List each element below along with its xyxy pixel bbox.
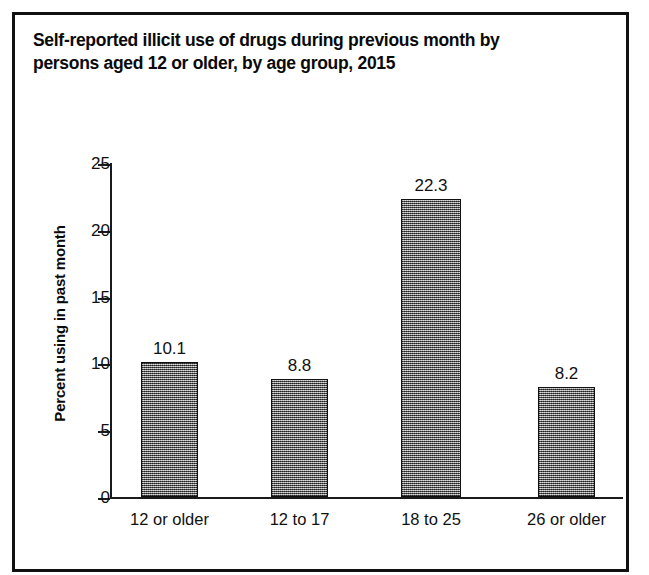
x-tick-label-2: 18 to 25 — [355, 511, 507, 528]
bar-group-3: 8.2 26 or older — [538, 15, 595, 575]
y-axis-title: Percent using in past month — [51, 224, 68, 424]
y-tick-label-25: 25 — [44, 155, 110, 172]
bar-value-1: 8.8 — [247, 357, 352, 374]
bar-value-3: 8.2 — [514, 365, 619, 382]
x-tick-label-1: 12 to 17 — [225, 511, 374, 528]
x-tick-label-3: 26 or older — [492, 511, 641, 528]
bar-group-2: 22.3 18 to 25 — [401, 15, 461, 575]
bar-18-to-25[interactable] — [401, 199, 461, 497]
y-tick-label-0: 0 — [44, 489, 110, 506]
y-tick-label-20: 20 — [44, 222, 110, 239]
x-tick-label-0: 12 or older — [95, 511, 244, 528]
y-axis-line — [110, 163, 112, 499]
bar-26-or-older[interactable] — [538, 387, 595, 497]
y-tick-label-5: 5 — [44, 422, 110, 439]
y-tick-label-10: 10 — [44, 355, 110, 372]
figure-frame: Self-reported illicit use of drugs durin… — [12, 12, 629, 572]
y-tick-label-15: 15 — [44, 289, 110, 306]
plot-area: Percent using in past month 25 20 15 10 … — [15, 15, 632, 575]
bar-12-or-older[interactable] — [141, 362, 198, 497]
bar-value-2: 22.3 — [377, 177, 485, 194]
bar-group-0: 10.1 12 or older — [141, 15, 198, 575]
bar-group-1: 8.8 12 to 17 — [271, 15, 328, 575]
bar-value-0: 10.1 — [117, 340, 222, 357]
bar-12-to-17[interactable] — [271, 379, 328, 497]
